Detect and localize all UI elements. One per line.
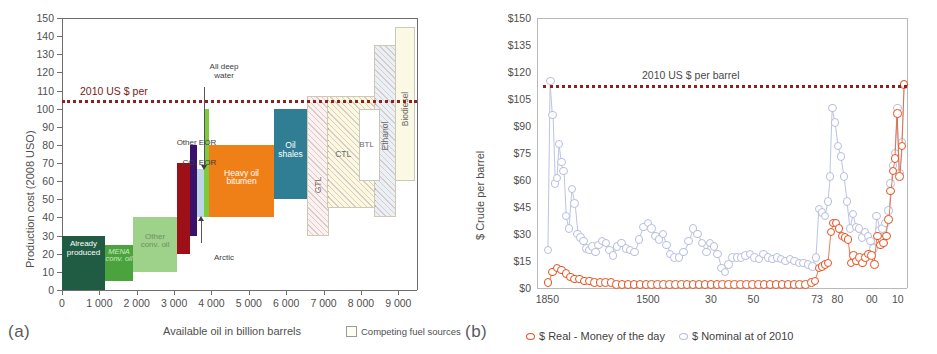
panel-a-y-tick-label: 20 [28, 248, 54, 260]
panel-a-x-tickmark [286, 290, 287, 295]
panel-b-y-tick-label: $45 [489, 201, 531, 213]
panel-b-legend-label: $ Nominal at of 2010 [692, 330, 794, 342]
annotation-arctic-arrowhead [198, 216, 204, 221]
panel-a-y-tick-label: 50 [28, 193, 54, 205]
panel-b-legend-item: $ Nominal at of 2010 [679, 330, 794, 342]
panel-a-frame-top [62, 18, 417, 19]
panel-a-x-tick-label: 9 000 [385, 297, 411, 309]
panel-b-x-tick-label: 10 [892, 293, 904, 305]
panel-a-y-tickmark [57, 127, 62, 128]
panel-a-letter: (a) [8, 322, 30, 342]
panel-b-x-tick-label: 1500 [636, 293, 659, 305]
annotation-other-eor: Other EOR [144, 139, 216, 148]
panel-a-x-tickmark [62, 290, 63, 295]
panel-b-x-tick-label: 80 [832, 293, 844, 305]
panel-a-y-tick-label: 80 [28, 139, 54, 151]
panel-b-x-tick-label: 00 [866, 293, 878, 305]
panel-b-x-tick-label: 73 [811, 293, 823, 305]
panel-b-y-tick-label: $120 [489, 66, 531, 78]
panel-a-x-tickmark [99, 290, 100, 295]
panel-a-reference-line [62, 100, 417, 103]
bar-already-produced [62, 236, 105, 290]
panel-a-x-tickmark [361, 290, 362, 295]
bar-arctic [197, 169, 204, 218]
panel-a-frame-bottom [62, 290, 417, 291]
panel-a-x-tick-label: 5 000 [236, 297, 262, 309]
panel-b-reference-line [543, 85, 907, 88]
panel-a-y-tick-label: 60 [28, 175, 54, 187]
panel-a-reference-line-label: 2010 US $ per [80, 85, 148, 97]
panel-a-y-tickmark [57, 18, 62, 19]
bar-other-conv-oil [133, 217, 177, 271]
bar-oil-shales [274, 109, 307, 200]
panel-a-x-tickmark [249, 290, 250, 295]
legend-marker-icon [679, 333, 688, 340]
panel-b-frame-top [537, 18, 907, 19]
panel-a-x-tick-label: 2 000 [124, 297, 150, 309]
panel-a-supply-cost-curve: (a) Production cost (2008 USO) Available… [0, 0, 470, 354]
panel-a-y-tick-label: 140 [28, 30, 54, 42]
panel-b-frame-right [907, 18, 908, 288]
panel-a-y-tick-label: 70 [28, 157, 54, 169]
panel-a-y-tickmark [57, 72, 62, 73]
panel-a-y-tick-label: 130 [28, 48, 54, 60]
bar-co-eor [177, 163, 190, 254]
annotation-co2-eor: CO. EOR [144, 159, 216, 168]
panel-a-x-tick-label: 1 000 [86, 297, 112, 309]
panel-b-legend-label: $ Real - Money of the day [539, 330, 665, 342]
panel-a-y-tickmark [57, 91, 62, 92]
panel-a-y-tick-label: 10 [28, 266, 54, 278]
panel-b-legend: $ Real - Money of the day$ Nominal at of… [526, 330, 793, 342]
bar-btl [359, 109, 380, 182]
panel-a-y-tickmark [57, 54, 62, 55]
panel-a-x-tickmark [137, 290, 138, 295]
panel-a-y-tick-label: 120 [28, 66, 54, 78]
panel-a-x-tick-label: 3 000 [161, 297, 187, 309]
panel-b-letter: (b) [465, 322, 487, 342]
panel-b-y-tick-label: $90 [489, 120, 531, 132]
panel-a-y-tick-label: 30 [28, 230, 54, 242]
panel-a-x-tick-label: 8 000 [348, 297, 374, 309]
annotation-arctic-arrow [201, 221, 202, 243]
panel-a-y-tickmark [57, 145, 62, 146]
panel-b-frame-bottom [537, 288, 907, 289]
panel-a-x-tick-label: 6 000 [273, 297, 299, 309]
panel-a-y-tickmark [57, 109, 62, 110]
panel-b-plot-area [537, 18, 907, 288]
panel-a-x-tick-label: 4 000 [198, 297, 224, 309]
panel-a-y-tick-label: 150 [28, 12, 54, 24]
panel-b-x-tick-label: 1850 [536, 293, 559, 305]
panel-b-legend-item: $ Real - Money of the day [526, 330, 665, 342]
panel-a-y-tick-label: 110 [28, 85, 54, 97]
panel-b-crude-price-history: (b) $ Crude per barrel $ Real - Money of… [460, 0, 937, 354]
panel-b-y-tick-label: $0 [489, 282, 531, 294]
bar-heavy-oil-bitumen [209, 145, 274, 218]
panel-a-frame-right [417, 18, 418, 290]
panel-a-x-tickmark [174, 290, 175, 295]
panel-a-x-tickmark [398, 290, 399, 295]
annotation-all-deep-water-arrow [204, 87, 205, 165]
panel-b-frame-left [537, 18, 538, 288]
panel-a-x-tick-label: 7 000 [310, 297, 336, 309]
panel-a-y-tickmark [57, 199, 62, 200]
panel-a-y-tick-label: 40 [28, 211, 54, 223]
annotation-all-deep-water: All deep water [192, 63, 256, 81]
competing-fuel-swatch-icon [346, 326, 357, 337]
bar-biodiesel [395, 27, 416, 181]
panel-b-y-tick-label: $105 [489, 93, 531, 105]
panel-a-y-tickmark [57, 36, 62, 37]
panel-a-y-tickmark [57, 181, 62, 182]
panel-a-y-tick-label: 0 [28, 284, 54, 296]
bar-gtl [307, 96, 329, 236]
panel-b-y-tick-label: $150 [489, 12, 531, 24]
panel-a-x-axis-title: Available oil in billion barrels [163, 325, 301, 337]
panel-b-x-tick-label: 50 [748, 293, 760, 305]
panel-b-y-axis-title: $ Crude per barrel [474, 151, 486, 240]
legend-marker-icon [526, 333, 535, 340]
panel-a-legend: Competing fuel sources [346, 326, 461, 337]
panel-a-y-tickmark [57, 163, 62, 164]
annotation-arctic: Arctic [198, 254, 250, 263]
panel-b-y-tick-label: $30 [489, 228, 531, 240]
panel-b-x-tick-label: 30 [705, 293, 717, 305]
panel-a-y-tick-label: 90 [28, 121, 54, 133]
